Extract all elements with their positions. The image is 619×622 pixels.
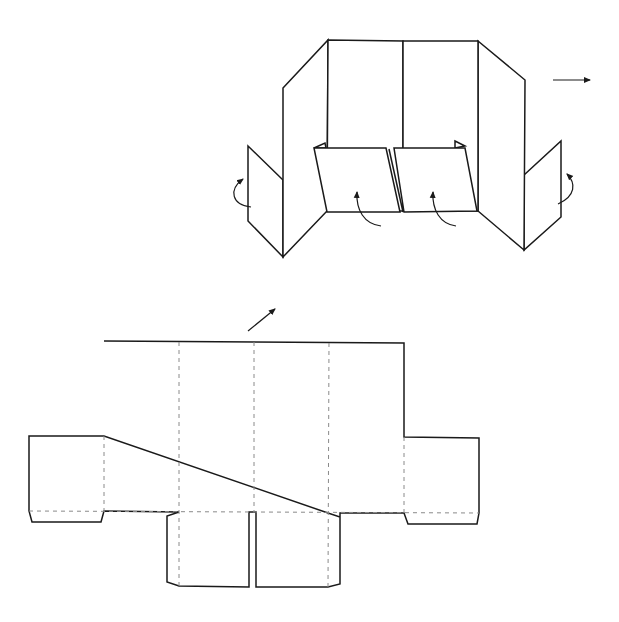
folding-diagram [0, 0, 619, 622]
fold-line-3 [328, 343, 329, 587]
left-side-flap [248, 146, 283, 257]
right-side-panel [478, 41, 525, 250]
folded-view [234, 40, 590, 257]
right-side-flap [524, 141, 561, 250]
direction-arrow-up-right [248, 309, 275, 331]
front-flap-right [394, 148, 477, 212]
flat-net [29, 309, 479, 587]
